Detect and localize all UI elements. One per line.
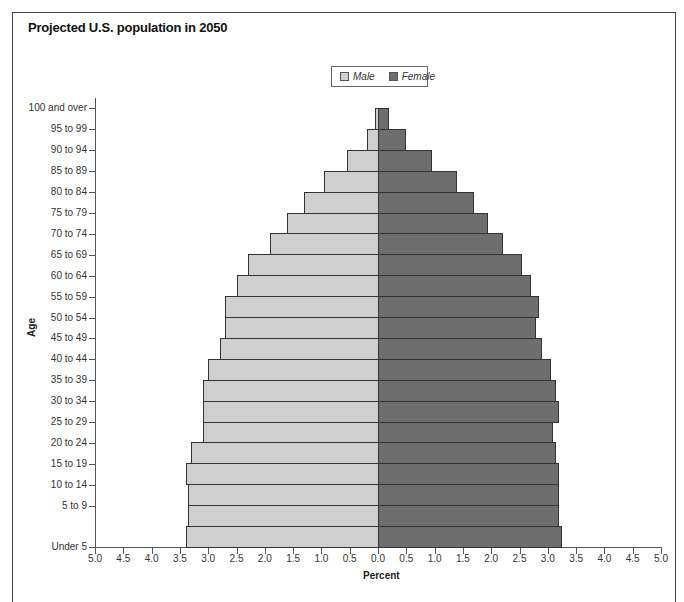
bar-male [287,213,379,235]
x-tick-label: 0.5 [335,553,365,564]
bar-female [378,317,536,339]
y-tick-label: 65 to 69 [7,249,87,261]
y-tick [89,276,95,277]
y-tick [89,234,95,235]
x-tick-label: 5.0 [646,553,676,564]
y-tick-label: 45 to 49 [7,332,87,344]
bar-male [208,359,379,381]
bar-female [378,484,559,506]
y-tick-label: 30 to 34 [7,395,87,407]
bar-female [378,275,531,297]
bar-male [220,338,379,360]
legend-item-female: Female [389,71,435,82]
y-tick-label: 85 to 89 [7,165,87,177]
y-tick [89,318,95,319]
bar-female [378,359,551,381]
x-tick-label: 4.0 [589,553,619,564]
y-tick [89,338,95,339]
y-tick [89,171,95,172]
y-tick [89,192,95,193]
bar-male [186,463,379,485]
bar-male [188,505,379,527]
y-tick-label: 40 to 44 [7,353,87,365]
bar-male [347,150,379,172]
chart-title: Projected U.S. population in 2050 [28,20,227,35]
y-tick-label: 35 to 39 [7,374,87,386]
bar-male [324,171,379,193]
y-tick-label: 10 to 14 [7,479,87,491]
y-tick [89,380,95,381]
x-tick-label: 2.5 [505,553,535,564]
y-tick-label: 20 to 24 [7,437,87,449]
bar-female [378,296,539,318]
bar-female [378,233,503,255]
y-tick-label: 15 to 19 [7,458,87,470]
bar-female [378,171,457,193]
y-tick [89,297,95,298]
y-tick-label: 80 to 84 [7,186,87,198]
bar-male [225,296,379,318]
y-tick-label: 55 to 59 [7,291,87,303]
y-tick [89,464,95,465]
bar-male [304,192,379,214]
y-axis-line [95,98,96,548]
y-tick [89,213,95,214]
x-tick-label: 1.0 [420,553,450,564]
x-tick-label: 2.5 [222,553,252,564]
y-tick [89,422,95,423]
bar-female [378,380,556,402]
y-tick-label: 60 to 64 [7,270,87,282]
y-tick-label: 50 to 54 [7,312,87,324]
chart-legend: Male Female [331,66,428,87]
bar-male [191,442,379,464]
y-tick [89,108,95,109]
bar-male [203,380,379,402]
bar-male [225,317,379,339]
x-tick-label: 1.5 [278,553,308,564]
y-tick-label: 70 to 74 [7,228,87,240]
y-tick-label: Under 5 [7,541,87,553]
female-swatch-icon [389,72,398,81]
bar-female [378,254,522,276]
x-tick-label: 4.5 [108,553,138,564]
y-tick [89,129,95,130]
legend-label-male: Male [353,71,375,82]
bar-female [378,150,432,172]
bar-male [248,254,379,276]
x-tick-label: 1.5 [448,553,478,564]
bar-female [378,422,553,444]
y-tick-label: 25 to 29 [7,416,87,428]
x-tick-label: 2.0 [476,553,506,564]
x-tick-label: 0.5 [391,553,421,564]
male-swatch-icon [340,72,349,81]
y-tick-label: 90 to 94 [7,144,87,156]
bar-female [378,108,389,130]
legend-label-female: Female [402,71,435,82]
y-tick [89,485,95,486]
x-tick-label: 3.5 [165,553,195,564]
x-tick-label: 4.5 [618,553,648,564]
bar-male [203,401,379,423]
x-tick-label: 3.0 [193,553,223,564]
x-tick-label: 1.0 [306,553,336,564]
x-tick-label: 4.0 [137,553,167,564]
bar-female [378,192,474,214]
y-tick [89,506,95,507]
x-axis-title: Percent [363,570,393,581]
bar-male [186,526,379,548]
bar-male [270,233,379,255]
y-tick-label: 75 to 79 [7,207,87,219]
bar-female [378,442,556,464]
bar-female [378,463,559,485]
bar-female [378,213,488,235]
x-tick-label: 0.0 [363,553,393,564]
y-tick [89,443,95,444]
x-tick-label: 5.0 [80,553,110,564]
x-tick-label: 3.5 [561,553,591,564]
bar-female [378,526,562,548]
y-tick-label: 95 to 99 [7,123,87,135]
bar-male [203,422,379,444]
bar-female [378,129,406,151]
bar-male [237,275,380,297]
y-tick [89,359,95,360]
